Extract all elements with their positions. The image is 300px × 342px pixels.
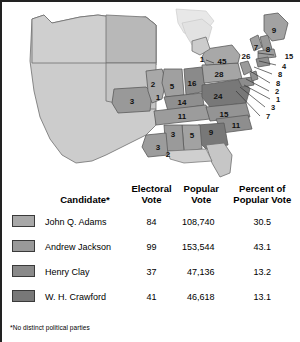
table-body: John Q. Adams84108,74030.5Andrew Jackson… bbox=[8, 209, 296, 309]
state-vote-label: 8 bbox=[266, 45, 271, 54]
footnote: *No distinct political parties bbox=[10, 324, 90, 331]
electoral-map: 9782645128165213142411151135932 15488213… bbox=[6, 5, 300, 181]
state-vote-label: 3 bbox=[171, 130, 176, 139]
row-color-swatch-cell bbox=[8, 209, 41, 234]
electoral-vote-value: 99 bbox=[129, 234, 174, 259]
state-vote-label: 16 bbox=[188, 79, 197, 88]
table-row: Henry Clay3747,13613.2 bbox=[8, 259, 296, 284]
row-color-swatch-cell bbox=[8, 259, 41, 284]
gulf-coast bbox=[168, 149, 212, 163]
state-vote-label: 9 bbox=[209, 128, 214, 137]
popular-vote-value: 46,618 bbox=[174, 284, 229, 309]
electoral-vote-value: 37 bbox=[129, 259, 174, 284]
leader-vote-label: 1 bbox=[276, 95, 280, 104]
leader-vote-label: 4 bbox=[282, 62, 287, 71]
state-vote-label: 9 bbox=[272, 26, 277, 35]
table-row: John Q. Adams84108,74030.5 bbox=[8, 209, 296, 234]
candidate-name: John Q. Adams bbox=[41, 209, 129, 234]
leader-vote-label: 7 bbox=[266, 112, 270, 121]
legend-swatch bbox=[12, 240, 35, 252]
state-vote-label: 15 bbox=[220, 110, 229, 119]
state-vote-label: 14 bbox=[178, 98, 187, 107]
row-color-swatch-cell bbox=[8, 284, 41, 309]
candidate-name: W. H. Crawford bbox=[41, 284, 129, 309]
percent-value: 43.1 bbox=[229, 234, 296, 259]
header-electoral-vote-line2: Vote bbox=[129, 195, 174, 206]
percent-value: 30.5 bbox=[229, 209, 296, 234]
popular-vote-value: 153,544 bbox=[174, 234, 229, 259]
header-electoral-vote: Electoral Vote bbox=[129, 184, 174, 209]
leader-vote-label: 3 bbox=[271, 103, 275, 112]
percent-value: 13.1 bbox=[229, 284, 296, 309]
header-percent-line2: Popular Vote bbox=[229, 195, 296, 206]
state-vote-label: 1 bbox=[200, 55, 205, 64]
state-vote-label: 5 bbox=[190, 131, 195, 140]
popular-vote-value: 108,740 bbox=[174, 209, 229, 234]
map-svg: 9782645128165213142411151135932 15488213… bbox=[6, 5, 300, 181]
state-vote-label: 45 bbox=[218, 57, 227, 66]
popular-vote-value: 47,136 bbox=[174, 259, 229, 284]
state-vote-label: 28 bbox=[215, 70, 224, 79]
table-row: Andrew Jackson99153,54443.1 bbox=[8, 234, 296, 259]
state-vote-label: 3 bbox=[156, 143, 161, 152]
table-row: W. H. Crawford4146,61813.1 bbox=[8, 284, 296, 309]
leader-vote-labels: 154882137 bbox=[266, 52, 293, 121]
legend-swatch bbox=[12, 215, 35, 227]
state-vote-label: 1 bbox=[156, 93, 161, 102]
table-header-row: Candidate* Electoral Vote Popular Vote P… bbox=[8, 184, 296, 209]
electoral-vote-value: 41 bbox=[129, 284, 174, 309]
percent-value: 13.2 bbox=[229, 259, 296, 284]
state-vote-label: 2 bbox=[166, 150, 171, 159]
state-vote-label: 5 bbox=[170, 82, 175, 91]
header-candidate: Candidate* bbox=[41, 184, 129, 209]
state-vote-label: 3 bbox=[130, 97, 135, 106]
footnote-text: No distinct political parties bbox=[13, 324, 90, 331]
leader-vote-label: 8 bbox=[278, 70, 282, 79]
figure-container: 9782645128165213142411151135932 15488213… bbox=[0, 0, 300, 342]
state-vote-label: 11 bbox=[232, 121, 241, 130]
legend-swatch bbox=[12, 265, 35, 277]
header-popular-vote-line2: Vote bbox=[174, 195, 229, 206]
electoral-vote-value: 84 bbox=[129, 209, 174, 234]
state-vote-label: 24 bbox=[214, 92, 223, 101]
election-results-table: Candidate* Electoral Vote Popular Vote P… bbox=[8, 184, 300, 342]
candidate-name: Andrew Jackson bbox=[41, 234, 129, 259]
header-swatch bbox=[8, 184, 41, 209]
header-percent: Percent of Popular Vote bbox=[229, 184, 296, 209]
leader-vote-label: 15 bbox=[285, 52, 293, 61]
header-popular-vote: Popular Vote bbox=[174, 184, 229, 209]
candidate-name: Henry Clay bbox=[41, 259, 129, 284]
state-vote-label: 26 bbox=[242, 52, 251, 61]
legend-swatch bbox=[12, 290, 35, 302]
northwest-territory bbox=[106, 15, 156, 63]
table-header: Candidate* Electoral Vote Popular Vote P… bbox=[8, 184, 296, 209]
state-vote-label: 11 bbox=[178, 112, 187, 121]
row-color-swatch-cell bbox=[8, 234, 41, 259]
state-vote-label: 7 bbox=[254, 43, 259, 52]
vote-table: Candidate* Electoral Vote Popular Vote P… bbox=[8, 184, 296, 309]
state-vote-label: 2 bbox=[151, 80, 156, 89]
